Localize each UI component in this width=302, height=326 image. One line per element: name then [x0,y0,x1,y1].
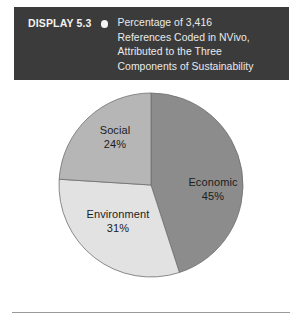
caption-line-1: Percentage of 3,416 [118,16,279,31]
filled-circle-icon [101,20,109,28]
pie-value-economic: 45% [202,190,224,202]
caption-line-4: Components of Sustainability [118,60,279,75]
display-caption-bar: DISPLAY 5.3 Percentage of 3,416 Referenc… [14,7,289,80]
pie-chart-svg: Economic45%Environment31%Social24% [0,84,302,289]
pie-value-social: 24% [104,138,126,150]
pie-label-environment: Environment [87,208,150,220]
caption-line-3: Attributed to the Three [118,45,279,60]
display-figure: DISPLAY 5.3 Percentage of 3,416 Referenc… [0,0,302,326]
pie-label-social: Social [100,124,131,136]
bullet-separator [92,16,118,28]
display-number-label: DISPLAY 5.3 [28,16,92,31]
pie-value-environment: 31% [107,222,129,234]
display-caption-text: Percentage of 3,416 References Coded in … [118,16,279,74]
footer-divider [12,312,290,313]
pie-chart: Economic45%Environment31%Social24% [0,84,302,289]
caption-line-2: References Coded in NVivo, [118,31,279,46]
pie-label-economic: Economic [188,176,237,188]
